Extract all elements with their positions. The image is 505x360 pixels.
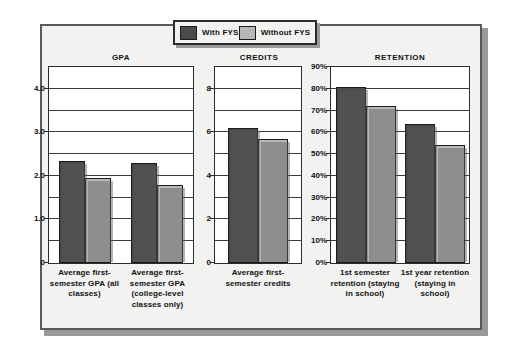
panel-title-credits: CREDITS (214, 52, 304, 66)
x-labels-credits: Average first-semester credits (214, 268, 302, 289)
y-axis-tick-label: 50% (311, 149, 327, 158)
bar-group (331, 67, 400, 263)
y-axis-credits: 02468 (196, 66, 214, 264)
y-axis-tick-label: 90% (311, 62, 327, 71)
x-label-credits-0: Average first-semester credits (214, 268, 302, 289)
legend-entry-without-fys: Without FYS (239, 26, 311, 40)
y-axis-tick-label: 60% (311, 127, 327, 136)
x-labels-retention: 1st semester retention (staying in schoo… (330, 268, 470, 300)
panel-gpa: GPA 01.02.03.04.0 Average first-semester… (24, 52, 194, 310)
panel-retention: RETENTION 0%10%20%30%40%50%60%70%80%90% … (300, 52, 470, 300)
bar-without-fys (157, 185, 183, 263)
chart-legend: With FYS Without FYS (173, 20, 317, 45)
bar-with-fys (336, 87, 366, 263)
bar-container (49, 67, 193, 263)
y-axis-gpa: 01.02.03.04.0 (24, 66, 48, 264)
legend-label-with-fys: With FYS (202, 28, 239, 37)
bar-container (331, 67, 469, 263)
plot-area-credits (214, 66, 302, 264)
x-label-retention-0: 1st semester retention (staying in schoo… (330, 268, 400, 300)
bar-with-fys (405, 124, 435, 263)
y-axis-tick-label: 70% (311, 105, 327, 114)
bar-group (400, 67, 469, 263)
y-axis-tick-label: 10% (311, 236, 327, 245)
legend-entry-with-fys: With FYS (180, 26, 239, 40)
legend-label-without-fys: Without FYS (261, 28, 311, 37)
x-label-gpa-1: Average first-semester GPA (college-leve… (121, 268, 194, 310)
bar-with-fys (59, 161, 85, 263)
plot-area-gpa (48, 66, 194, 264)
x-label-retention-1: 1st year retention (staying in school) (400, 268, 470, 300)
y-axis-tick-label: 80% (311, 83, 327, 92)
bar-with-fys (228, 128, 258, 263)
bar-container (215, 67, 301, 263)
y-axis-retention: 0%10%20%30%40%50%60%70%80%90% (300, 66, 330, 264)
bar-without-fys (85, 178, 111, 263)
bar-group (49, 67, 121, 263)
plot-area-retention (330, 66, 470, 264)
bar-without-fys (366, 106, 396, 263)
y-axis-tick-label: 40% (311, 170, 327, 179)
legend-swatch-without-fys (239, 26, 256, 40)
bar-without-fys (435, 145, 465, 263)
bar-group (215, 67, 301, 263)
x-labels-gpa: Average first-semester GPA (all classes)… (48, 268, 194, 310)
y-axis-tick-label: 20% (311, 214, 327, 223)
bar-group (121, 67, 193, 263)
panel-title-gpa: GPA (48, 52, 194, 66)
panel-title-retention: RETENTION (330, 52, 470, 66)
y-axis-tick-label: 30% (311, 192, 327, 201)
legend-swatch-with-fys (180, 26, 197, 40)
x-label-gpa-0: Average first-semester GPA (all classes) (48, 268, 121, 310)
chart-screenshot: With FYS Without FYS GPA 01.02.03.04.0 A… (0, 0, 505, 360)
bar-without-fys (258, 139, 288, 263)
bar-with-fys (131, 163, 157, 263)
panel-credits: CREDITS 02468 Average first-semester cre… (196, 52, 304, 289)
